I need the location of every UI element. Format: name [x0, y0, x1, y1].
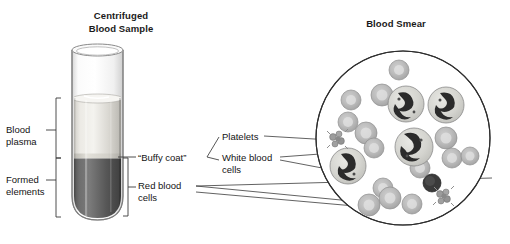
red-blood-cell [358, 194, 380, 216]
red-blood-cell [442, 148, 462, 168]
white-blood-cell-monocyte [395, 128, 433, 166]
red-blood-cell [402, 194, 422, 214]
red-cell-layer [72, 159, 123, 221]
diagram-graphics [0, 0, 510, 244]
red-blood-cell [379, 187, 401, 209]
bracket-formed-elements [56, 158, 61, 217]
bracket-red-blood-cells [123, 158, 128, 216]
red-blood-cell [435, 127, 457, 149]
tube-contents [72, 94, 123, 221]
plasma-layer [72, 98, 123, 158]
fan-line-to-platelets [207, 137, 219, 157]
glass-highlight-left [85, 100, 87, 218]
fan-line-to-white-blood-cells [207, 157, 219, 160]
glass-highlight-right [110, 100, 112, 212]
bracket-blood-plasma [56, 98, 61, 158]
white-blood-cell-neutrophil [330, 148, 366, 184]
left-brackets [46, 98, 61, 217]
red-blood-cell [389, 60, 409, 80]
red-blood-cell [364, 138, 384, 158]
red-blood-cell [341, 90, 361, 110]
buffy-coat-fan [207, 137, 219, 160]
tube-rim-inner [77, 47, 119, 55]
white-blood-cell-neutrophil [428, 87, 464, 123]
buffy-coat-layer [72, 154, 123, 159]
red-blood-cell [461, 147, 479, 165]
blood-smear-panel [316, 51, 490, 225]
white-blood-cell-neutrophil [388, 86, 424, 122]
centrifuge-tube [72, 44, 123, 221]
blood-diagram-figure: Centrifuged Blood Sample Blood Smear Blo… [0, 0, 510, 244]
white-blood-cell-lymphocyte [423, 174, 441, 192]
